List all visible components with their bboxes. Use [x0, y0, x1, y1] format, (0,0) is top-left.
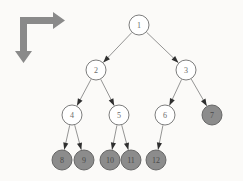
tree-node-7[interactable]: 7 [202, 105, 222, 125]
tree-node-12[interactable]: 12 [146, 150, 166, 170]
tree-node-1[interactable]: 1 [129, 15, 149, 35]
edge-arrowhead-icon [77, 142, 82, 149]
edge-arrowhead-icon [157, 142, 162, 149]
node-circle [52, 150, 72, 170]
edge-arrowhead-icon [169, 98, 174, 105]
node-circle [155, 105, 175, 125]
tree-node-11[interactable]: 11 [121, 150, 141, 170]
tree-node-8[interactable]: 8 [52, 150, 72, 170]
node-circle [86, 60, 106, 80]
node-circle [202, 105, 222, 125]
node-circle [62, 105, 82, 125]
node-circle [109, 105, 129, 125]
edge-arrowhead-icon [201, 99, 207, 106]
node-circle [121, 150, 141, 170]
node-circle [176, 60, 196, 80]
node-circle [100, 150, 120, 170]
tree-node-3[interactable]: 3 [176, 60, 196, 80]
tree-edges [64, 32, 206, 150]
edge-arrowhead-icon [77, 98, 83, 105]
tree-node-4[interactable]: 4 [62, 105, 82, 125]
tree-node-5[interactable]: 5 [109, 105, 129, 125]
edge-arrowhead-icon [63, 142, 68, 149]
node-circle [74, 150, 94, 170]
tree-node-9[interactable]: 9 [74, 150, 94, 170]
tree-diagram-figure: 123456789101112 [0, 0, 243, 181]
edge-arrowhead-icon [124, 142, 129, 149]
tree-nodes: 123456789101112 [52, 15, 222, 170]
node-circle [146, 150, 166, 170]
tree-diagram-canvas: 123456789101112 [0, 0, 243, 181]
right-down-arrow-icon [15, 12, 65, 63]
tree-node-6[interactable]: 6 [155, 105, 175, 125]
tree-node-10[interactable]: 10 [100, 150, 120, 170]
edge-arrowhead-icon [109, 98, 115, 105]
edge-arrowhead-icon [111, 142, 116, 149]
tree-node-2[interactable]: 2 [86, 60, 106, 80]
node-circle [129, 15, 149, 35]
